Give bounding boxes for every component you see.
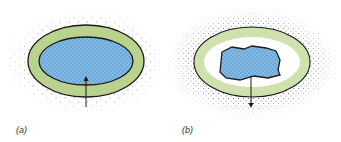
panel-b [168,9,336,117]
panel-label-a: (a) [16,125,27,135]
shrunken-cytoplasm [220,46,280,80]
panel-label-b: (b) [182,125,193,135]
diagram-canvas [0,0,341,142]
panel-a [6,10,166,114]
